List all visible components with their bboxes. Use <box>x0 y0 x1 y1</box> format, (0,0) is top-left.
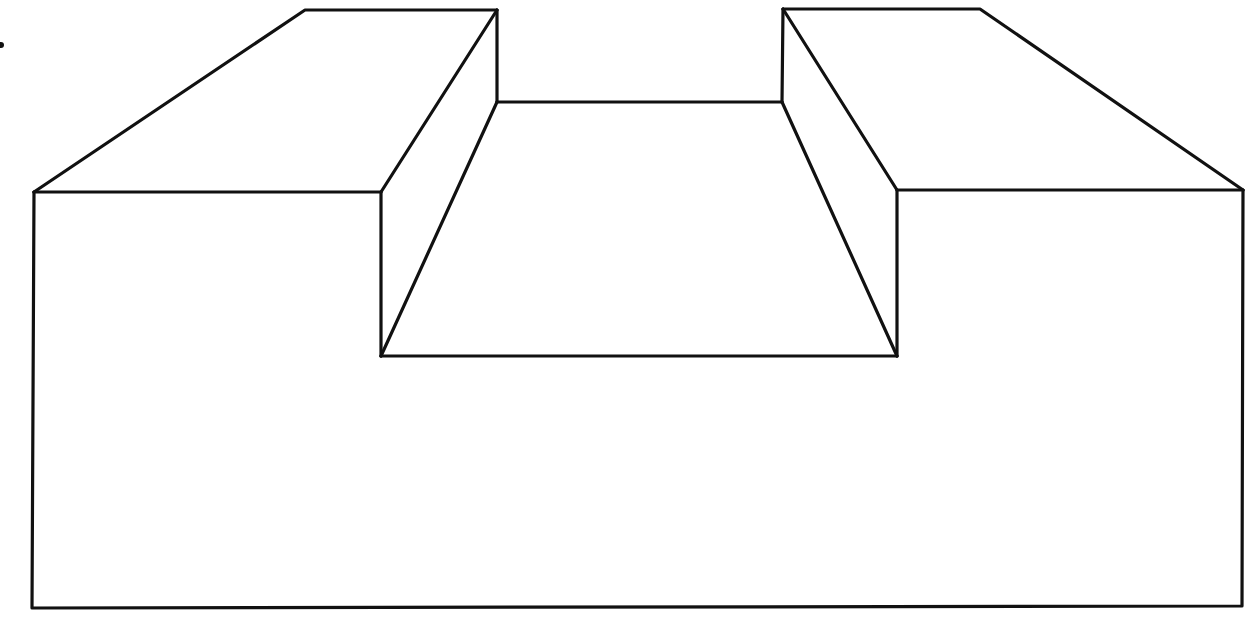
channel-floor <box>381 102 897 356</box>
dot-mark <box>0 42 4 48</box>
u-channel-block-drawing <box>0 0 1254 625</box>
right-block-top-face <box>783 9 1243 190</box>
right-block-back-vertical <box>782 9 783 102</box>
